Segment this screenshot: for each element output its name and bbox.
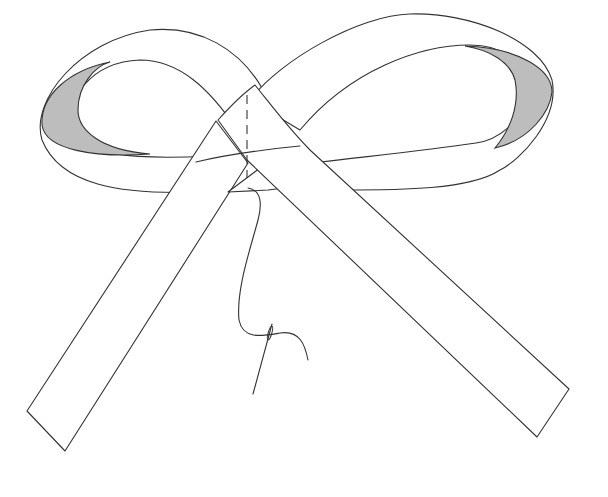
bow-illustration: Ribbon bow with stitched center, threade… bbox=[0, 0, 608, 497]
thread bbox=[239, 188, 308, 360]
left-loop-inner-shading bbox=[42, 62, 150, 155]
